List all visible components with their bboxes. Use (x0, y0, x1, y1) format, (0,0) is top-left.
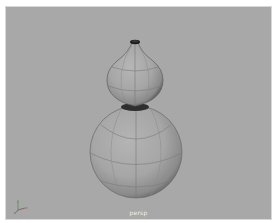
viewport-panel[interactable]: y x z persp (5, 6, 272, 220)
camera-label: persp (6, 209, 271, 216)
gourd-model[interactable] (6, 7, 272, 220)
lower-bulb (90, 106, 182, 198)
upper-bulb (107, 43, 163, 106)
neck-tip (130, 40, 140, 44)
svg-text:y: y (17, 199, 19, 203)
